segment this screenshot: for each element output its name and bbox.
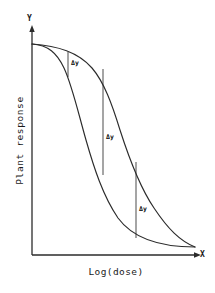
delta-y-label-3: Δy — [139, 206, 147, 213]
y-axis-title: Plant response — [14, 81, 25, 201]
axis-frame — [29, 25, 201, 258]
delta-y-label-1: Δy — [71, 60, 79, 67]
x-axis-tip-label: X — [200, 250, 205, 259]
delta-y-label-2: Δy — [106, 134, 114, 141]
delta-y-segments — [68, 52, 136, 238]
y-axis-tip-label: Y — [27, 14, 32, 23]
plant-response-dose-response-figure: Y X Plant response Log(dose) Δy Δy Δy — [0, 0, 215, 293]
x-axis-title: Log(dose) — [32, 266, 200, 277]
dose-response-curve-left — [32, 44, 195, 247]
dose-response-curve-right — [32, 44, 195, 247]
y-axis-arrowhead — [29, 25, 34, 32]
plot-canvas — [0, 0, 215, 293]
